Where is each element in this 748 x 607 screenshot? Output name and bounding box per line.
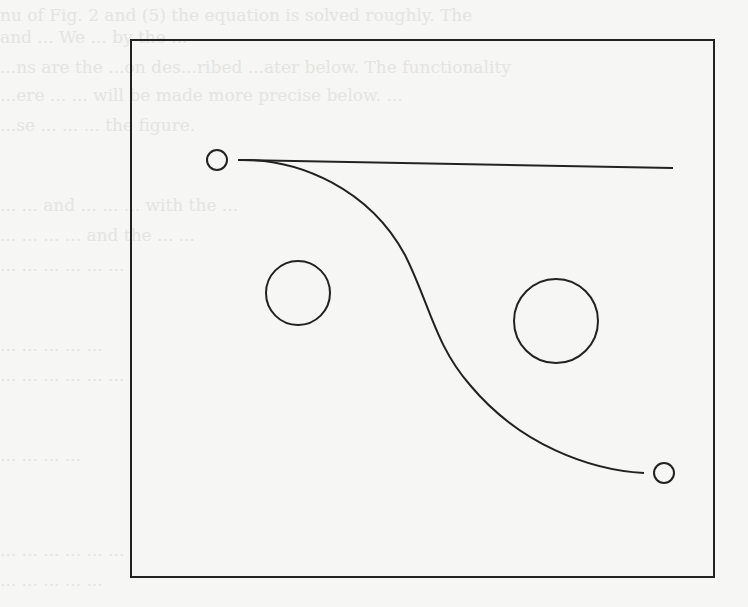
- straight-path: [238, 160, 673, 168]
- curved-path: [238, 160, 644, 473]
- domain-frame: [131, 40, 714, 577]
- path-planning-diagram: [0, 0, 748, 607]
- goal-point: [654, 463, 674, 483]
- start-point: [207, 150, 227, 170]
- right-obstacle: [514, 279, 598, 363]
- left-obstacle: [266, 261, 330, 325]
